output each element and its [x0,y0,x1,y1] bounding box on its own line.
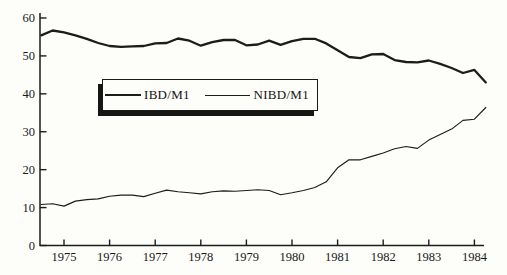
x-axis-tick-label: 1983 [416,250,441,264]
y-axis-tick-label: 30 [23,125,36,139]
x-axis-tick-label: 1982 [371,250,396,264]
legend-item-nibd: NIBD/M1 [205,87,309,103]
legend-item-ibd: IBD/M1 [105,87,190,103]
series-line-ibd-m1 [41,31,486,83]
x-axis-tick-label: 1976 [97,250,122,264]
x-axis-tick-label: 1980 [280,250,305,264]
x-axis-tick-label: 1975 [52,250,77,264]
line-chart-canvas: 0102030405060197519761977197819791980198… [0,0,507,275]
legend-label-nibd: NIBD/M1 [253,87,309,103]
y-axis-tick-label: 0 [29,239,35,253]
chart-figure: 0102030405060197519761977197819791980198… [0,0,507,275]
ibd-line-sample-icon [105,94,141,96]
x-axis-tick-label: 1984 [462,250,488,264]
x-axis-tick-label: 1981 [325,250,350,264]
y-axis-tick-label: 20 [23,163,36,177]
nibd-line-sample-icon [205,95,250,96]
legend-label-ibd: IBD/M1 [144,87,190,103]
x-axis-tick-label: 1979 [234,250,259,264]
chart-legend: IBD/M1 NIBD/M1 [102,79,318,111]
axis-lines [40,13,484,246]
x-axis-tick-label: 1977 [143,250,168,264]
series-line-nibd-m1 [41,108,486,207]
y-axis-tick-label: 40 [23,87,36,101]
y-axis-tick-label: 50 [23,49,36,63]
y-axis-tick-label: 10 [23,201,36,215]
y-axis-tick-label: 60 [23,11,36,25]
x-axis-tick-label: 1978 [188,250,213,264]
